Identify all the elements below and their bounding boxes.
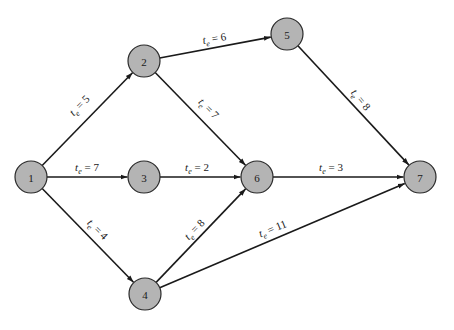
edge-1-3-duration-label: te = 7 xyxy=(75,161,99,176)
edge-4-6-arrow xyxy=(156,189,246,283)
nodes-layer: 1234567 xyxy=(15,18,436,310)
node-2: 2 xyxy=(128,45,160,77)
node-4: 4 xyxy=(129,278,161,310)
edge-6-7-duration-label: te = 3 xyxy=(319,161,343,176)
node-3: 3 xyxy=(128,161,160,193)
edge-4-7-duration-label: te = 11 xyxy=(257,217,289,242)
edge-3-6-duration-label: te = 2 xyxy=(185,161,209,176)
node-6: 6 xyxy=(241,161,273,193)
node-label: 2 xyxy=(141,56,147,68)
edge-1-2-arrow xyxy=(42,73,132,166)
edge-labels-layer: te = 5te = 7te = 4te = 6te = 7te = 2te =… xyxy=(67,30,374,244)
node-label: 4 xyxy=(142,289,148,301)
node-label: 6 xyxy=(254,172,260,184)
node-label: 3 xyxy=(141,172,147,184)
pert-network-diagram: te = 5te = 7te = 4te = 6te = 7te = 2te =… xyxy=(0,0,454,330)
edge-1-4-arrow xyxy=(42,189,133,283)
node-5: 5 xyxy=(271,18,303,50)
node-label: 1 xyxy=(28,172,34,184)
edge-4-6-duration-label: te = 8 xyxy=(182,216,210,244)
node-label: 5 xyxy=(284,29,290,41)
node-1: 1 xyxy=(15,161,47,193)
edge-4-7-arrow xyxy=(160,184,405,288)
edge-2-6-arrow xyxy=(155,73,245,166)
node-7: 7 xyxy=(404,161,436,193)
edge-5-7-arrow xyxy=(298,46,409,165)
edge-1-4-duration-label: te = 4 xyxy=(83,216,111,244)
node-label: 7 xyxy=(417,172,423,184)
edge-2-6-duration-label: te = 7 xyxy=(194,95,222,123)
edge-5-7-duration-label: te = 8 xyxy=(347,86,374,114)
